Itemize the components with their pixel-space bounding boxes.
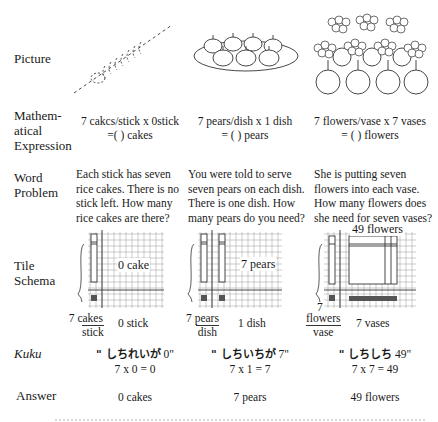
kuku-chant: " しちしち	[339, 348, 393, 361]
multiplier-col-1: 0 stick	[118, 316, 148, 330]
kuku-col-2: " しちいちが 7" 7 x 1 = 7	[190, 347, 310, 376]
rate-fraction-col-1: 7 cakes stick	[68, 312, 104, 339]
answer-col-3: 49 flowers	[315, 390, 435, 404]
expression-col-2: 7 pears/dish x 1 dish = ( ) pears	[190, 114, 300, 142]
row-label-tile-schema: Tile Schema	[14, 258, 55, 288]
fraction-numerator: 7 cakes	[68, 312, 104, 325]
word-problem-line: There is one dish. How	[188, 196, 305, 211]
tile-schema-grid-col-3	[320, 230, 420, 310]
kuku-col-1: " しちれいが 0" 7 x 0 = 0	[75, 347, 195, 376]
word-problem-line: You were told to serve	[188, 167, 305, 182]
row-label-line: Problem	[14, 185, 58, 200]
fraction-numerator: flowers	[306, 312, 341, 326]
kuku-value: 7"	[278, 348, 288, 360]
tile-label-col-1: 0 cake	[117, 258, 150, 272]
tile-label-col-3: 49 flowers	[350, 222, 405, 236]
fraction-denominator: vase	[306, 326, 341, 339]
word-problem-line: seven pears on each dish.	[188, 182, 305, 197]
rate-fraction-col-3: flowers vase	[306, 312, 341, 339]
row-label-line: Tile	[14, 258, 55, 273]
answer-col-2: 7 pears	[190, 390, 310, 404]
kuku-chant: " しちいちが	[211, 348, 276, 361]
expression-col-3: 7 flowers/vase x 7 vases = ( ) flowers	[305, 114, 435, 142]
row-label-expression: Mathem- atical Expression	[14, 108, 72, 153]
word-problem-line: rice cakes are there?	[76, 211, 179, 226]
row-label-word-problem: Word Problem	[14, 170, 58, 200]
word-problem-col-1: Each stick has seven rice cakes. There i…	[76, 167, 179, 225]
expression-line: 7 pears/dish x 1 dish	[190, 114, 300, 128]
row-label-line: Word	[14, 170, 58, 185]
multiplier-col-2: 1 dish	[238, 316, 266, 330]
expression-line: =( ) cakes	[70, 128, 190, 142]
row-label-line: Schema	[14, 273, 55, 288]
kuku-equation: 7 x 7 = 49	[315, 362, 435, 376]
flowers-in-vases-icon	[310, 12, 435, 97]
row-label-line: atical	[14, 123, 72, 138]
expression-line: = ( ) flowers	[305, 128, 435, 142]
word-problem-line: Each stick has seven	[76, 167, 179, 182]
word-problem-col-2: You were told to serve seven pears on ea…	[188, 167, 305, 225]
kuku-equation: 7 x 1 = 7	[190, 362, 310, 376]
kuku-value: 0"	[163, 348, 173, 360]
fraction-denominator: stick	[82, 325, 104, 339]
expression-col-1: 7 cakcs/stick x 0stick =( ) cakes	[70, 114, 190, 142]
cropped-caption	[55, 414, 425, 422]
rate-fraction-col-2: 7 pears dish	[186, 312, 219, 339]
row-label-line: Mathem-	[14, 108, 72, 123]
tile-label-col-2: 7 pears	[240, 257, 276, 271]
word-problem-line: She is putting seven	[314, 167, 432, 182]
word-problem-line: stick left. How many	[76, 196, 179, 211]
row-label-line: Expression	[14, 138, 72, 153]
row-label-kuku: Kuku	[14, 346, 41, 361]
word-problem-line: rice cakes. There is no	[76, 182, 179, 197]
pears-on-dish-icon	[193, 30, 299, 75]
expression-line: 7 cakcs/stick x 0stick	[70, 114, 190, 128]
kuku-equation: 7 x 0 = 0	[75, 362, 195, 376]
word-problem-line: many pears do you need?	[188, 211, 305, 226]
answer-col-1: 0 cakes	[75, 390, 195, 404]
word-problem-col-3: She is putting seven flowers into each v…	[314, 167, 432, 225]
row-label-picture: Picture	[14, 51, 51, 66]
kuku-col-3: " しちしち 49" 7 x 7 = 49	[315, 347, 435, 376]
expression-line: = ( ) pears	[190, 128, 300, 142]
word-problem-line: How many flowers does	[314, 196, 432, 211]
fraction-denominator: dish	[196, 325, 219, 339]
word-problem-line: flowers into each vase.	[314, 182, 432, 197]
kuku-chant: " しちれいが	[96, 348, 161, 361]
kuku-value: 49"	[395, 348, 411, 360]
fraction-numerator: 7 pears	[186, 312, 219, 325]
multiplier-col-3: 7 vases	[356, 316, 390, 330]
row-label-answer: Answer	[16, 388, 56, 403]
expression-line: 7 flowers/vase x 7 vases	[305, 114, 435, 128]
rice-cakes-stick-icon	[72, 20, 182, 95]
